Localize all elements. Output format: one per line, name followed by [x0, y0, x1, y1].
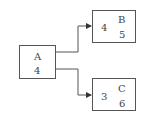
- node-c-value: 6: [119, 99, 125, 109]
- node-c-incoming-value: 3: [101, 92, 107, 102]
- node-a-value: 4: [34, 66, 40, 76]
- node-b-label: B: [118, 15, 125, 25]
- node-a-label: A: [34, 52, 41, 62]
- node-c: 3 C 6: [92, 78, 136, 111]
- node-a: A 4: [19, 45, 56, 79]
- node-c-label: C: [118, 84, 126, 94]
- edge-a-to-c: [55, 69, 91, 95]
- node-b-value: 5: [119, 30, 125, 40]
- node-b: 4 B 5: [92, 10, 136, 43]
- node-b-incoming-value: 4: [101, 23, 107, 33]
- edge-a-to-b: [55, 26, 91, 52]
